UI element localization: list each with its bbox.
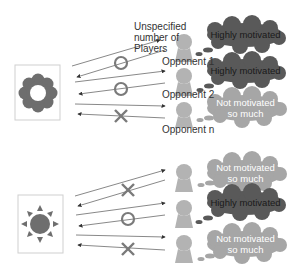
bottom-arrows <box>75 170 165 250</box>
thought-line-1: Not motivated <box>208 233 283 244</box>
thought-line-1: Not motivated <box>208 162 283 173</box>
header-line-1: Unspecified <box>134 21 186 32</box>
opponent-2-label: Opponent 2 <box>162 89 214 100</box>
thought-text: Not motivated so much <box>208 162 283 184</box>
person-icon <box>175 200 193 228</box>
thought-line-2: so much <box>208 108 283 119</box>
thought-text: Highly motivated <box>208 29 283 40</box>
person-icon <box>175 164 193 192</box>
thought-line-1: Not motivated <box>208 97 283 108</box>
thought-text: Not motivated so much <box>208 97 283 119</box>
opponent-1-label: Opponent 1 <box>162 56 214 67</box>
cross-mark-icon <box>122 243 134 255</box>
thought-text: Highly motivated <box>208 65 283 76</box>
players-header-label: Unspecified number of Players <box>134 21 186 54</box>
thought-text: Not motivated so much <box>208 233 283 255</box>
header-line-2: number of <box>134 32 186 43</box>
circle-mark-icon <box>115 57 127 69</box>
thought-line-2: so much <box>208 173 283 184</box>
header-line-3: Players <box>134 43 186 54</box>
person-icon <box>175 235 193 263</box>
thought-text: Highly motivated <box>208 197 283 208</box>
thought-line-2: so much <box>208 244 283 255</box>
opponent-n-label: Opponent n <box>162 124 214 135</box>
